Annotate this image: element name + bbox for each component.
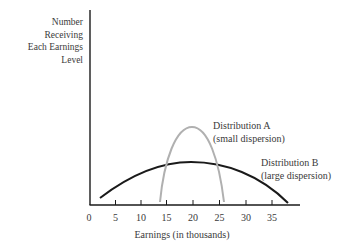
x-ticks: [116, 200, 273, 205]
svg-text:25: 25: [215, 212, 225, 223]
svg-text:20: 20: [188, 212, 198, 223]
svg-text:15: 15: [162, 212, 172, 223]
x-axis-label: Earnings (in thousands): [135, 229, 230, 241]
svg-text:35: 35: [267, 212, 277, 223]
svg-text:0: 0: [87, 212, 92, 223]
svg-text:10: 10: [136, 212, 146, 223]
distribution-a-label: Distribution A: [213, 120, 271, 131]
distribution-b-label: Distribution B: [261, 157, 319, 168]
distribution-a-sublabel: (small dispersion): [213, 133, 285, 145]
x-tick-labels: 0 5 10 15 20 25 30 35: [87, 212, 278, 223]
distribution-b-curve: [100, 162, 288, 203]
chart-canvas: 0 5 10 15 20 25 30 35 Earnings (in thous…: [0, 0, 353, 250]
distribution-b-sublabel: (large dispersion): [261, 170, 331, 182]
svg-text:30: 30: [241, 212, 251, 223]
svg-text:5: 5: [113, 212, 118, 223]
